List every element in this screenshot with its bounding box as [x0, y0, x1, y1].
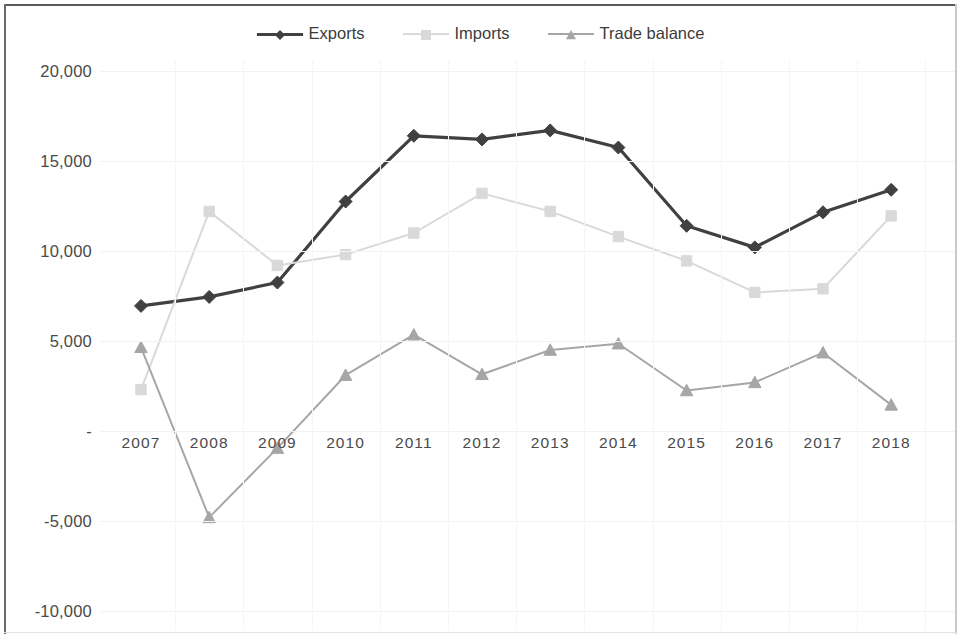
gridline-vertical — [789, 60, 790, 630]
chart-container: ExportsImportsTrade balance 20,00015,000… — [0, 0, 961, 641]
y-axis-tick-label: 15,000 — [0, 152, 92, 171]
x-axis-tick-label: 2016 — [735, 434, 774, 452]
data-point-marker — [135, 299, 148, 312]
y-axis-tick-label: -5,000 — [0, 512, 92, 531]
gridline-vertical — [857, 60, 858, 630]
data-point-marker — [203, 290, 216, 303]
data-point-marker — [408, 329, 420, 340]
y-axis-tick-label: 10,000 — [0, 242, 92, 261]
x-axis-tick-label: 2015 — [667, 434, 706, 452]
gridline-horizontal — [100, 71, 955, 72]
data-point-marker — [885, 183, 898, 196]
data-point-marker — [204, 206, 214, 216]
gridline-vertical — [516, 60, 517, 630]
data-point-marker — [136, 384, 146, 394]
y-axis-tick-label: 5,000 — [0, 332, 92, 351]
x-axis-tick-label: 2012 — [463, 434, 502, 452]
data-point-marker — [817, 206, 830, 219]
data-point-marker — [886, 211, 896, 221]
x-axis-tick-label: 2017 — [804, 434, 843, 452]
gridline-vertical — [584, 60, 585, 630]
data-point-marker — [818, 284, 828, 294]
data-point-marker — [613, 231, 623, 241]
data-point-marker — [817, 347, 829, 358]
plot-area — [0, 0, 961, 641]
gridline-vertical — [448, 60, 449, 630]
y-axis-tick-label: - — [0, 422, 92, 441]
gridline-horizontal — [100, 431, 955, 432]
data-point-marker — [135, 341, 147, 352]
data-point-marker — [339, 369, 351, 380]
x-axis-tick-label: 2013 — [531, 434, 570, 452]
gridline-vertical — [653, 60, 654, 630]
gridline-vertical — [721, 60, 722, 630]
gridline-horizontal — [100, 161, 955, 162]
data-point-marker — [681, 256, 691, 266]
x-axis-tick-label: 2010 — [326, 434, 365, 452]
gridline-horizontal — [100, 341, 955, 342]
data-point-marker — [750, 287, 760, 297]
data-point-marker — [477, 188, 487, 198]
data-point-marker — [545, 206, 555, 216]
data-point-marker — [272, 260, 282, 270]
gridline-vertical — [312, 60, 313, 630]
gridline-vertical — [243, 60, 244, 630]
gridline-vertical — [925, 60, 926, 630]
gridline-horizontal — [100, 521, 955, 522]
gridline-horizontal — [100, 611, 955, 612]
y-axis-tick-label: 20,000 — [0, 62, 92, 81]
x-axis-tick-label: 2018 — [872, 434, 911, 452]
x-axis-tick-label: 2007 — [122, 434, 161, 452]
chart-svg — [0, 0, 961, 641]
data-point-marker — [409, 228, 419, 238]
data-point-marker — [544, 124, 557, 137]
gridline-horizontal — [100, 251, 955, 252]
x-axis-tick-label: 2008 — [190, 434, 229, 452]
data-point-marker — [476, 368, 488, 379]
x-axis-tick-label: 2014 — [599, 434, 638, 452]
x-axis-tick-label: 2011 — [395, 434, 433, 452]
x-axis-tick-label: 2009 — [258, 434, 297, 452]
data-point-marker — [476, 133, 489, 146]
gridline-vertical — [175, 60, 176, 630]
y-axis-tick-label: -10,000 — [0, 602, 92, 621]
gridline-vertical — [380, 60, 381, 630]
